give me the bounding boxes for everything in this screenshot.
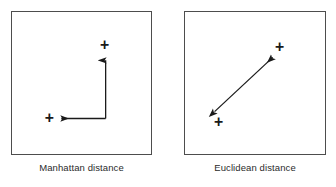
distance-metrics-figure: + + + + Manhattan distance Euclidean dis…: [0, 0, 336, 187]
caption-manhattan-distance: Manhattan distance: [11, 162, 152, 173]
manhattan-point-upper-right-marker: +: [100, 36, 109, 53]
caption-euclidean-distance: Euclidean distance: [184, 162, 326, 173]
euclidean-point-upper-right-marker: +: [275, 38, 284, 55]
panel-manhattan-distance: + +: [11, 11, 152, 155]
euclidean-point-lower-left-marker: +: [214, 113, 223, 130]
manhattan-point-lower-left-marker: +: [45, 109, 54, 126]
euclidean-diagram: + +: [185, 12, 325, 154]
panel-euclidean-distance: + +: [184, 11, 326, 155]
euclidean-diagonal-segment: [215, 57, 273, 111]
manhattan-diagram: + +: [12, 12, 151, 154]
